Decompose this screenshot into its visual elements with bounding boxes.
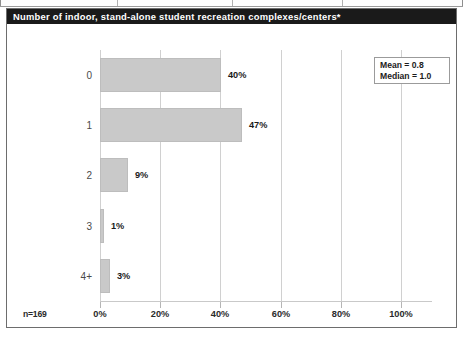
bar-value-label-0: 40% bbox=[228, 70, 246, 80]
x-tick-label-40: 40% bbox=[211, 309, 229, 319]
x-tick-label-100: 100% bbox=[389, 309, 413, 319]
x-axis-ticks bbox=[100, 302, 432, 308]
x-tick-label-80: 80% bbox=[332, 309, 350, 319]
bar-category-4[interactable] bbox=[100, 259, 110, 293]
x-tick-80 bbox=[341, 302, 342, 308]
bar-row: 47% bbox=[100, 108, 431, 142]
plot-wrapper: 0 1 2 3 4+ 40% 47% 9% bbox=[7, 24, 456, 327]
bar-row: 9% bbox=[100, 158, 431, 192]
plot-area: 40% 47% 9% 1% 3% bbox=[100, 50, 431, 301]
chart-figure: Number of indoor, stand-alone student re… bbox=[6, 8, 457, 328]
bar-value-label-3: 1% bbox=[111, 221, 124, 231]
chart-title: Number of indoor, stand-alone student re… bbox=[7, 9, 456, 24]
x-tick-label-0: 0% bbox=[93, 309, 106, 319]
bar-category-2[interactable] bbox=[100, 158, 128, 192]
median-label: Median = 1.0 bbox=[380, 71, 449, 82]
x-tick-label-20: 20% bbox=[151, 309, 169, 319]
bar-category-3[interactable] bbox=[100, 209, 104, 243]
bar-value-label-2: 9% bbox=[135, 170, 148, 180]
x-tick-20 bbox=[160, 302, 161, 308]
sample-size-label: n=169 bbox=[23, 309, 47, 319]
bar-category-1[interactable] bbox=[100, 108, 242, 142]
mean-label: Mean = 0.8 bbox=[380, 60, 449, 71]
bar-row: 1% bbox=[100, 209, 431, 243]
scanned-table-sliver bbox=[0, 0, 463, 7]
stats-legend-box: Mean = 0.8 Median = 1.0 bbox=[374, 57, 450, 84]
bar-value-label-1: 47% bbox=[249, 120, 267, 130]
bar-row: 3% bbox=[100, 259, 431, 293]
x-axis-tick-labels: 0% 20% 40% 60% 80% 100% bbox=[7, 309, 456, 323]
y-tick-label-3: 3 bbox=[86, 221, 92, 232]
x-tick-100 bbox=[401, 302, 402, 308]
x-tick-label-60: 60% bbox=[272, 309, 290, 319]
y-tick-label-1: 1 bbox=[86, 120, 92, 131]
bar-value-label-4: 3% bbox=[117, 271, 130, 281]
x-tick-40 bbox=[220, 302, 221, 308]
x-tick-60 bbox=[281, 302, 282, 308]
y-tick-label-0: 0 bbox=[86, 70, 92, 81]
y-axis-tick-labels: 0 1 2 3 4+ bbox=[47, 50, 92, 301]
bar-category-0[interactable] bbox=[100, 58, 221, 92]
x-tick-0 bbox=[100, 302, 101, 308]
y-tick-label-2: 2 bbox=[86, 170, 92, 181]
y-tick-label-4: 4+ bbox=[81, 271, 92, 282]
